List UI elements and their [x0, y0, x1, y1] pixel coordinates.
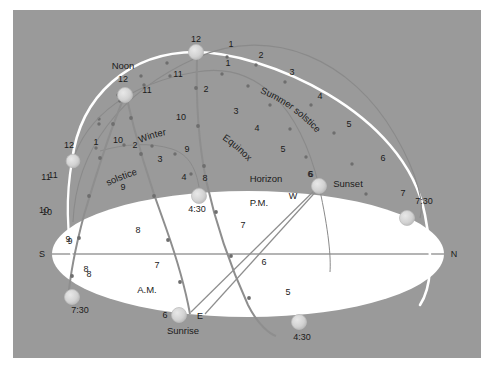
label-summer-am-11: 11 [173, 69, 182, 79]
label-center-7: 7 [240, 220, 245, 230]
marker-meridian-12 [66, 154, 80, 168]
label-sunset-6: 6 [307, 169, 312, 179]
marker-noon-12 [118, 88, 133, 103]
label-sunset: Sunset [333, 178, 363, 189]
label-cardinal-west: W [289, 191, 298, 201]
label-cardinal-south: S [39, 249, 45, 259]
equinox-hour-dots-am [97, 74, 171, 125]
marker-summer-rise-730 [65, 290, 80, 305]
label-am: A.M. [137, 284, 157, 295]
marker-summer-set-730 [400, 211, 415, 226]
label-cardinal-east: E [197, 311, 203, 321]
label-center-6: 6 [261, 257, 266, 267]
label-meridian-12: 12 [64, 140, 74, 150]
marker-sunrise [172, 308, 187, 323]
label-winter-pm-4: 4 [181, 172, 186, 182]
label-am-6: 6 [162, 310, 167, 320]
label-winter-pm-2: 2 [132, 140, 137, 150]
label-winter-solstice-line1: Winter [137, 126, 167, 145]
label-winter-rise-430: 4:30 [293, 332, 311, 342]
label-summer-solstice: Summer solstice [259, 84, 323, 134]
label-winter-pm-1: 1 [93, 137, 98, 147]
label-summer-pm-1: 1 [228, 39, 233, 49]
label-winter-set-430: 4:30 [188, 204, 206, 214]
label-zenith-12: 12 [191, 34, 201, 44]
label-summer-pm-5: 5 [346, 119, 351, 129]
label-pm: P.M. [250, 197, 268, 208]
label-am-7: 7 [154, 260, 159, 270]
label-equinox-pm-5: 5 [280, 144, 285, 154]
label-horizon: Horizon [250, 173, 283, 184]
label-winter-am-8: 8 [135, 225, 140, 235]
label-meridian-8: 8 [86, 269, 91, 279]
label-cardinal-north: N [451, 249, 458, 259]
celestial-sphere-svg: 12 Noon 12 12 1 2 3 4 5 6 7 7:30 11 10 9… [0, 0, 494, 370]
marker-winter-rise-430 [292, 315, 307, 330]
label-summer-am-9: 9 [184, 144, 189, 154]
marker-zenith-12 [189, 45, 204, 60]
label-meridian-10: 10 [42, 207, 52, 217]
label-summer-set-730: 7:30 [415, 196, 433, 206]
label-summer-pm-6: 6 [380, 153, 385, 163]
label-noon: Noon [112, 60, 135, 71]
label-winter-am-11: 11 [142, 85, 151, 95]
label-summer-rise-730: 7:30 [71, 305, 89, 315]
label-equinox-pm-2: 2 [203, 84, 208, 94]
label-summer-pm-2: 2 [258, 50, 263, 60]
label-meridian-11: 11 [48, 170, 57, 180]
label-summer-pm-3: 3 [289, 67, 294, 77]
label-equinox: Equinox [221, 132, 255, 163]
label-winter-pm-3: 3 [157, 154, 162, 164]
label-equinox-pm-4: 4 [254, 123, 259, 133]
label-sunrise: Sunrise [167, 325, 199, 336]
label-noon-hour: 12 [118, 74, 128, 84]
marker-sunset [312, 179, 327, 194]
label-equinox-pm-3: 3 [233, 106, 238, 116]
label-winter-am-10: 10 [113, 135, 123, 145]
label-winter-am-9: 9 [120, 182, 125, 192]
label-summer-pm-4: 4 [317, 91, 322, 101]
label-summer-am-10: 10 [176, 112, 186, 122]
marker-winter-set-430 [192, 189, 207, 204]
label-winter-pm-5: 5 [285, 287, 290, 297]
label-equinox-pm-1: 1 [225, 58, 230, 68]
diagram-root: 12 Noon 12 12 1 2 3 4 5 6 7 7:30 11 10 9… [0, 0, 494, 370]
label-summer-am-8: 8 [202, 173, 207, 183]
label-meridian-9: 9 [67, 236, 72, 246]
